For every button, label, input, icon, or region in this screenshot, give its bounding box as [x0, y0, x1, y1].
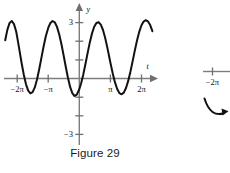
partial-x-tick-label-neg-2pi: −2π — [206, 77, 220, 87]
partial-curve-arrowhead — [222, 109, 229, 116]
x-tick-label-pi: π — [108, 84, 113, 94]
y-axis-arrowhead — [76, 3, 83, 11]
main-plot: y t −2π −π π 2π 3 −3 — [4, 3, 158, 145]
figure-container: y t −2π −π π 2π 3 −3 −2π Figure 29 — [0, 0, 230, 173]
y-axis-label: y — [86, 5, 91, 14]
y-tick-label-neg-3: −3 — [64, 129, 73, 139]
x-tick-label-neg-pi: −π — [44, 84, 54, 94]
x-tick-label-2pi: 2π — [137, 84, 146, 94]
x-tick-label-neg-2pi: −2π — [11, 84, 25, 94]
x-axis-label: t — [147, 62, 150, 71]
y-tick-label-3: 3 — [69, 17, 73, 27]
partial-plot-right: −2π — [203, 68, 230, 116]
partial-curve — [205, 99, 225, 115]
x-axis-arrowhead — [150, 75, 158, 82]
figure-caption: Figure 29 — [0, 147, 190, 159]
